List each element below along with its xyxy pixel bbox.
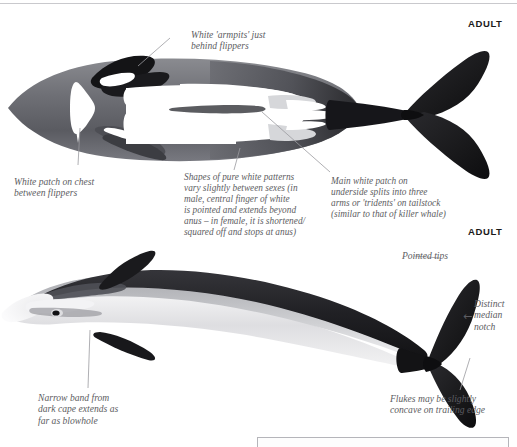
leader-narrow-band	[88, 330, 90, 388]
trident-arm-lower	[268, 124, 316, 141]
adult-label-top: ADULT	[468, 18, 502, 29]
leader-flukes-concave	[460, 358, 470, 390]
ventral-slit-marking	[169, 105, 266, 113]
lower-eye-surround	[51, 309, 63, 317]
callout-white-armpits: White 'armpits' just behind flippers	[191, 29, 321, 52]
white-ventral-field-upper	[124, 85, 305, 111]
lower-belly	[6, 291, 409, 367]
top-body-posterior-shading	[210, 61, 359, 159]
callout-main-white-patch: Main white patch on underside splits int…	[331, 176, 479, 220]
top-flipper-lower-lobe	[102, 134, 166, 160]
callout-white-pattern-variation: Shapes of pure white patterns vary sligh…	[184, 172, 320, 238]
white-armpit-upper	[100, 73, 135, 87]
lower-fluke-notch	[423, 356, 442, 372]
leader-main-white-patch	[262, 112, 330, 172]
white-ventral-field-core	[126, 88, 236, 144]
lower-flank	[8, 275, 412, 355]
white-chest-patch-finger	[71, 108, 85, 143]
trident-arm-upper	[268, 95, 316, 109]
callout-pointed-tips: Pointed tips	[378, 250, 448, 261]
leader-white-armpits	[138, 38, 170, 66]
leader-white-chest	[78, 128, 80, 165]
top-fluke-lower	[405, 112, 490, 179]
adult-label-bottom: ADULT	[468, 226, 502, 237]
field-guide-plate: ADULT ADULT White 'armpits' just behind …	[0, 0, 517, 447]
callout-flukes-concave: Flukes may be slightly concave on traili…	[390, 393, 517, 416]
lower-mouthline-light	[26, 299, 95, 313]
white-ventral-field-extend	[180, 84, 306, 144]
top-flipper-upper	[91, 56, 155, 89]
lower-pectoral-flipper	[93, 332, 155, 361]
leader-white-pattern	[234, 148, 240, 170]
lower-rostrum	[2, 293, 54, 322]
lower-tailstock	[396, 348, 437, 373]
narrow-cape-band	[38, 283, 126, 300]
header-divider	[0, 3, 517, 4]
top-animal-ventral	[8, 51, 490, 179]
lower-mouthline	[29, 308, 102, 317]
callout-white-patch-chest: White patch on chest between flippers	[14, 176, 134, 199]
median-notch-arrow-icon: ←	[463, 311, 472, 322]
top-flipper-upper-lobe	[101, 72, 169, 97]
callout-narrow-band: Narrow band from dark cape extends as fa…	[38, 392, 158, 426]
top-tailstock	[326, 100, 417, 130]
lower-dark-cape	[40, 270, 427, 358]
white-chest-patch	[70, 82, 95, 134]
trident-arm-central	[272, 110, 335, 121]
white-ventral-field-lower	[124, 112, 305, 143]
white-armpit-lower	[104, 128, 139, 141]
lower-dorsal-fin	[99, 251, 155, 290]
trident-arm-upper-white	[286, 100, 326, 111]
top-body-outline	[8, 59, 361, 162]
top-fluke-notch	[401, 110, 424, 120]
lower-eye	[52, 310, 59, 315]
bottom-info-box	[257, 437, 509, 447]
trident-arm-lower-white	[286, 121, 326, 130]
top-flipper-lower	[95, 126, 166, 155]
callout-median-notch: Distinct median notch	[474, 298, 517, 332]
top-fluke-upper	[405, 51, 490, 118]
